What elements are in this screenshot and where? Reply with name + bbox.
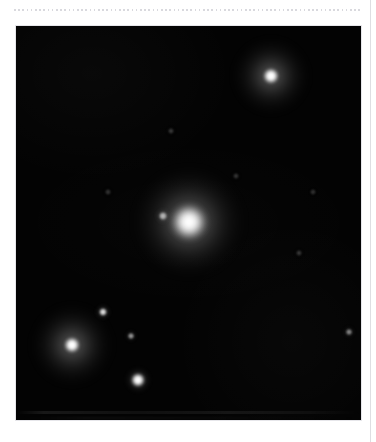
source-core-upper-right-star bbox=[263, 68, 279, 84]
source-halo-upper-right-star bbox=[233, 38, 309, 114]
astronomical-image-panel[interactable] bbox=[16, 26, 361, 420]
source-core-dot-d bbox=[169, 129, 173, 133]
page-canvas bbox=[0, 0, 376, 442]
source-halo-dot-h bbox=[309, 188, 317, 196]
source-core-dot-b bbox=[128, 333, 134, 339]
source-core-dot-h bbox=[311, 190, 315, 194]
source-core-lower-center-star bbox=[131, 373, 145, 387]
source-core-primary-star bbox=[172, 205, 206, 239]
source-core-lower-left-star bbox=[64, 337, 80, 353]
source-halo-dot-b bbox=[124, 329, 138, 343]
detector-streak-secondary bbox=[16, 417, 361, 419]
dotted-rule bbox=[14, 9, 362, 11]
background-noise bbox=[16, 26, 361, 420]
source-core-dot-c bbox=[346, 329, 352, 335]
page-margin-rule bbox=[370, 0, 371, 442]
source-core-dot-a bbox=[99, 308, 107, 316]
source-halo-dot-d bbox=[166, 126, 176, 136]
source-halo-lower-left-star bbox=[32, 305, 112, 385]
source-halo-dot-f bbox=[231, 171, 241, 181]
source-core-dot-e bbox=[297, 251, 301, 255]
detector-streak bbox=[16, 411, 361, 414]
source-core-dot-g bbox=[106, 190, 110, 194]
source-halo-dot-g bbox=[103, 187, 113, 197]
source-halo-dot-a bbox=[94, 303, 112, 321]
source-halo-primary-star bbox=[135, 168, 243, 276]
source-halo-primary-companion bbox=[154, 207, 172, 225]
source-halo-dot-c bbox=[342, 325, 356, 339]
source-core-primary-companion bbox=[159, 212, 167, 220]
source-halo-dot-e bbox=[294, 248, 304, 258]
source-core-dot-f bbox=[234, 174, 238, 178]
source-halo-lower-center-star bbox=[124, 366, 152, 394]
